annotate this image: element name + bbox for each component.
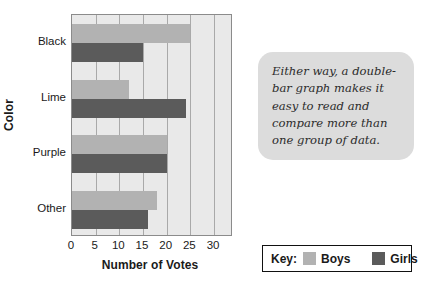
gridline [167,15,168,235]
x-axis-title: Number of Votes [60,258,240,272]
plot-area [71,14,232,236]
category-label-lime: Lime [18,92,66,104]
legend-label-boys: Boys [321,252,350,266]
x-tick-25: 25 [183,239,196,251]
y-axis-title: Color [2,85,16,145]
bar-other-boys [72,191,157,210]
x-tick-10: 10 [112,239,125,251]
category-label-purple: Purple [18,147,66,159]
legend-swatch-girls-icon [372,252,385,265]
bar-black-boys [72,24,190,43]
x-axis-tick-labels: 051015202530 [71,239,232,253]
legend: Key: Boys Girls [262,245,412,272]
x-tick-5: 5 [91,239,97,251]
callout-textbox: Either way, a double-bar graph makes it … [258,52,414,160]
bar-lime-boys [72,80,129,99]
y-axis-category-labels: BlackLimePurpleOther [18,14,66,236]
legend-title: Key: [271,252,297,266]
x-tick-15: 15 [136,239,149,251]
legend-label-girls: Girls [390,252,417,266]
gridline [190,15,191,235]
double-bar-chart: Color BlackLimePurpleOther 051015202530 … [0,0,248,282]
bar-purple-boys [72,135,167,154]
legend-entry-girls: Girls [372,252,417,266]
bar-other-girls [72,210,148,229]
x-tick-0: 0 [68,239,74,251]
legend-entry-boys: Boys [303,252,350,266]
legend-swatch-boys-icon [303,252,316,265]
gridline [214,15,215,235]
x-tick-20: 20 [159,239,172,251]
bar-purple-girls [72,154,167,173]
category-label-other: Other [18,203,66,215]
x-tick-30: 30 [207,239,220,251]
bar-black-girls [72,43,143,62]
category-label-black: Black [18,36,66,48]
bar-lime-girls [72,99,186,118]
